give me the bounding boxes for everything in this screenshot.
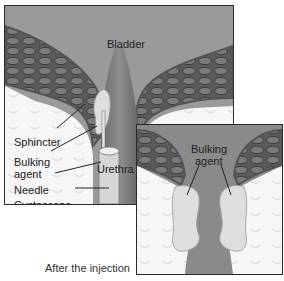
bladder-label: Bladder — [107, 38, 145, 50]
needle-label: Needle — [14, 184, 49, 196]
after-injection-caption: After the injection — [45, 262, 130, 274]
urethra-label: Urethra — [97, 163, 134, 175]
bulking-agent-label-line2: agent — [14, 168, 42, 180]
cystoscope-label: Cystoscope — [14, 199, 71, 205]
after-injection-panel: Bulking agent — [136, 124, 283, 275]
bulking-agent-label-line1: Bulking — [14, 156, 50, 168]
inset-bulking-agent-label-line1: Bulking — [191, 143, 227, 155]
sphincter-label: Sphincter — [14, 136, 60, 148]
inset-bulking-agent-label-line2: agent — [195, 155, 223, 167]
